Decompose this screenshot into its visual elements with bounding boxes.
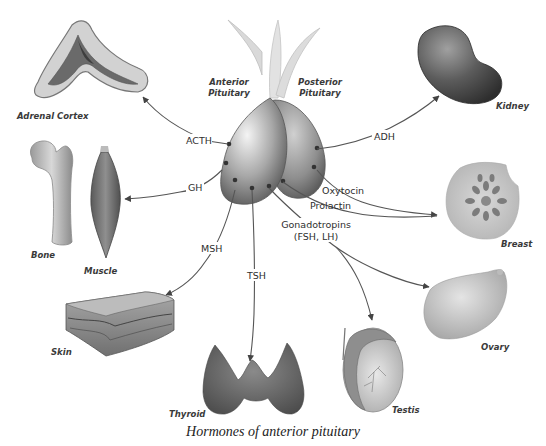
posterior-pituitary-label-2: Pituitary [299,88,341,98]
target-label-kidney: Kidney [496,101,529,111]
hormone-label-msh: MSH [201,243,222,254]
arrow-gh [125,170,222,199]
anterior-pituitary-label-2: Pituitary [208,88,250,98]
hormone-label-acth: ACTH [186,135,212,146]
hormone-label-gonadotropins: Gonadotropins [281,219,351,230]
target-label-testis: Testis [392,405,420,415]
target-label-skin: Skin [51,347,72,357]
thyroid-illustration [203,343,304,414]
target-label-bone: Bone [31,250,55,260]
skin-illustration [66,292,174,356]
breast-illustration [446,162,519,239]
hormone-label-gh: GH [188,182,203,193]
target-label-ovary: Ovary [481,342,510,352]
arrow-gonadotropins-testis [336,247,372,320]
pituitary-hormones-diagram: Anterior Pituitary Posterior Pituitary A… [0,0,546,446]
hormone-label-gonadotropins-sub: (FSH, LH) [294,231,338,242]
figure-caption: Hormones of anterior pituitary [0,424,546,440]
target-label-adrenal-cortex: Adrenal Cortex [16,111,89,121]
hormone-label-oxytocin: Oxytocin [322,185,364,196]
hormone-label-adh: ADH [374,131,395,142]
posterior-pituitary-label: Posterior [298,77,343,87]
ovary-illustration [424,269,507,339]
muscle-illustration [91,146,120,258]
target-label-muscle: Muscle [84,266,118,276]
anterior-pituitary-label: Anterior [208,77,249,87]
target-label-breast: Breast [501,239,533,249]
kidney-illustration [418,26,502,104]
hormone-label-tsh: TSH [246,270,266,281]
bone-illustration [30,141,72,245]
adrenal-cortex-illustration [35,21,148,98]
hormone-label-prolactin: Prolactin [310,200,351,211]
testis-illustration [343,328,403,412]
target-label-thyroid: Thyroid [169,409,206,419]
